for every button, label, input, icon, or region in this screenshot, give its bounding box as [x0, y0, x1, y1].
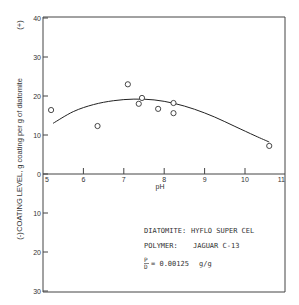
data-point-circle [156, 106, 161, 111]
data-point-circle [136, 101, 141, 106]
y-tick-label: 10 [33, 132, 41, 139]
data-point-circle [48, 107, 53, 112]
x-tick-label: 5 [45, 176, 49, 183]
y-axis-label: COATING LEVEL, g coating per g of diatom… [15, 78, 24, 232]
y-tick-label: 30 [33, 288, 41, 295]
coating-level-vs-ph-chart: 403020100102030 567891011 pH COATING LEV… [0, 0, 299, 305]
polymer-value: JAGUAR C-13 [193, 242, 239, 250]
x-tick-label: 10 [241, 176, 249, 183]
fitted-curve-line [53, 99, 269, 142]
data-point-circle [267, 143, 272, 148]
x-tick-label: 6 [81, 176, 85, 183]
ratio-value: = 0.00125 [151, 260, 189, 268]
data-point-circle [171, 100, 176, 105]
x-axis-label: pH [156, 183, 165, 191]
data-points [48, 82, 271, 149]
data-point-circle [125, 82, 130, 87]
data-point-circle [171, 111, 176, 116]
x-tick-label: 7 [122, 176, 126, 183]
ratio-denominator: D [144, 263, 148, 270]
y-tick-label: 30 [33, 54, 41, 61]
y-tick-label: 0 [37, 171, 41, 178]
plot-frame [43, 17, 285, 292]
y-tick-label: 10 [33, 210, 41, 217]
y-tick-label: 40 [33, 15, 41, 22]
x-tick-label: 9 [203, 176, 207, 183]
y-tick-label: 20 [33, 93, 41, 100]
ratio-units: g/g [199, 260, 212, 268]
y-tick-label: 20 [33, 249, 41, 256]
diatomite-label: DIATOMITE: [144, 227, 186, 235]
annotation-block: DIATOMITE: HYFLO SUPER CEL POLYMER: JAGU… [144, 227, 254, 270]
data-point-circle [95, 123, 100, 128]
ratio-numerator: P [144, 256, 148, 263]
x-axis-ticks: 567891011 [45, 168, 285, 183]
y-axis-ticks: 403020100102030 [33, 15, 48, 295]
polymer-label: POLYMER: [144, 242, 178, 250]
x-tick-label: 8 [162, 176, 166, 183]
x-tick-label: 11 [278, 176, 285, 183]
y-axis-negative-marker: (-) [15, 232, 24, 240]
data-point-circle [139, 95, 144, 100]
y-axis-positive-marker: (+) [15, 20, 24, 30]
diatomite-value: HYFLO SUPER CEL [191, 227, 254, 235]
y-axis-label-group: COATING LEVEL, g coating per g of diatom… [15, 78, 24, 232]
